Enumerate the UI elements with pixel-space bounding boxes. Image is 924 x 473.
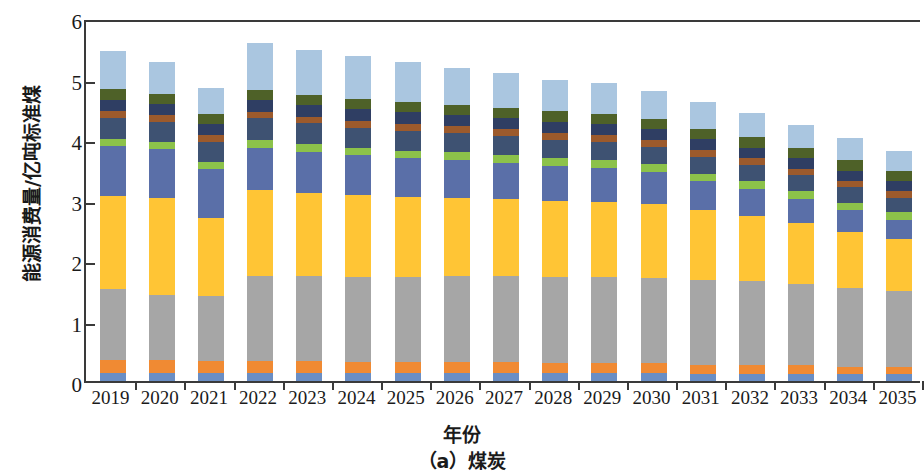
plot-area: 0123456 [84,20,920,383]
bar-segment [296,117,322,124]
bar-segment [247,90,273,100]
bar-segment [542,166,568,201]
bar-segment [788,374,814,381]
bar-column-2023[interactable] [296,50,322,381]
bar-segment [395,158,421,197]
bar-segment [493,199,519,276]
bar-segment [641,373,667,381]
bar-column-2034[interactable] [837,138,863,381]
bar-segment [444,126,470,133]
bar-column-2028[interactable] [542,80,568,381]
bar-column-2022[interactable] [247,43,273,381]
figure-caption: （a）煤炭 [0,446,924,473]
bar-segment [886,191,912,198]
x-axis-title: 年份 [0,420,924,447]
bar-segment [149,149,175,199]
bar-column-2033[interactable] [788,125,814,381]
bar-segment [198,142,224,162]
bar-segment [886,291,912,367]
bar-segment [149,198,175,295]
bar-column-2021[interactable] [198,88,224,381]
bar-segment [837,210,863,232]
bar-segment [198,218,224,295]
bar-segment [837,374,863,381]
bar-segment [198,114,224,124]
bar-segment [739,113,765,137]
bar-segment [100,146,126,196]
bar-segment [837,171,863,181]
bar-segment [247,148,273,190]
bar-column-2024[interactable] [345,56,371,381]
bar-segment [395,197,421,277]
bar-segment [739,148,765,159]
bar-segment [444,373,470,381]
bar-column-2026[interactable] [444,68,470,381]
bar-segment [100,139,126,146]
bar-column-2031[interactable] [690,102,716,381]
bar-segment [788,158,814,168]
bar-segment [542,133,568,140]
bar-segment [641,129,667,140]
bar-column-2020[interactable] [149,62,175,381]
bar-segment [493,118,519,129]
x-tick-label: 2035 [866,388,924,407]
bar-segment [247,276,273,361]
bar-segment [542,373,568,381]
bar-segment [296,50,322,95]
bar-segment [788,284,814,366]
bar-segment [837,203,863,211]
bar-segment [542,122,568,133]
bar-column-2035[interactable] [886,151,912,381]
bar-segment [149,94,175,104]
bar-segment [345,99,371,109]
bar-segment [198,124,224,135]
bar-segment [542,158,568,166]
bar-segment [886,171,912,181]
bar-column-2027[interactable] [493,73,519,381]
bar-segment [395,112,421,123]
bar-segment [542,277,568,363]
bar-segment [149,373,175,381]
bar-segment [198,162,224,169]
bar-segment [247,112,273,119]
bar-segment [591,363,617,373]
bar-segment [591,202,617,277]
bar-segment [739,374,765,381]
bar-segment [739,158,765,165]
bar-segment [345,155,371,195]
bar-segment [493,136,519,155]
bar-segment [641,204,667,278]
bar-segment [444,276,470,362]
bar-segment [493,155,519,163]
bar-segment [444,160,470,198]
bar-segment [247,190,273,276]
bar-segment [837,367,863,375]
bar-column-2029[interactable] [591,83,617,381]
bar-segment [739,181,765,189]
bar-column-2019[interactable] [100,51,126,381]
bar-segment [345,109,371,120]
bar-segment [591,168,617,202]
bar-segment [345,277,371,362]
bar-column-2030[interactable] [641,91,667,381]
bar-segment [591,160,617,168]
bar-segment [690,280,716,365]
bar-segment [444,115,470,126]
bar-segment [247,100,273,111]
bar-column-2032[interactable] [739,113,765,381]
bar-segment [198,169,224,219]
bar-segment [739,189,765,216]
bar-segment [444,198,470,277]
bar-segment [886,239,912,290]
bar-segment [591,373,617,381]
bar-segment [395,362,421,373]
bar-segment [345,373,371,381]
bar-segment [886,220,912,239]
bar-segment [395,102,421,112]
bar-column-2025[interactable] [395,62,421,381]
bar-segment [149,122,175,142]
bar-segment [247,118,273,140]
bar-segment [100,373,126,381]
bar-segment [886,374,912,381]
bar-segment [641,91,667,119]
